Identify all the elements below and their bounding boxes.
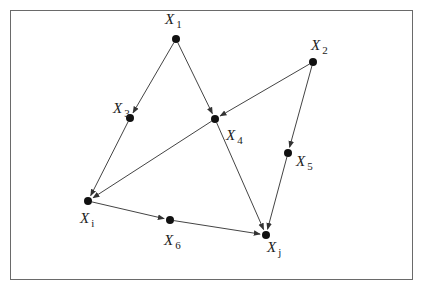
node-x4 xyxy=(211,115,219,123)
node-label-x5: X5 xyxy=(295,153,313,172)
node-x1 xyxy=(172,35,180,43)
node-label-x2: X2 xyxy=(310,37,328,56)
labels-group: X1X2X3X4X5XiX6Xj xyxy=(79,11,328,258)
edge-x1-to-x4 xyxy=(178,43,213,114)
edge-x5-to-xj xyxy=(268,157,287,229)
directed-graph: X1X2X3X4X5XiX6Xj xyxy=(0,0,425,286)
node-xi xyxy=(84,197,92,205)
edge-xi-to-x6 xyxy=(92,202,164,219)
edge-x2-to-x5 xyxy=(290,66,312,147)
node-label-xi: Xi xyxy=(79,210,94,229)
node-label-xj: Xj xyxy=(266,239,281,258)
node-label-x6: X6 xyxy=(163,232,181,251)
node-x5 xyxy=(284,149,292,157)
node-x2 xyxy=(309,58,317,66)
edges-group xyxy=(91,42,312,234)
node-x6 xyxy=(166,216,174,224)
edge-x6-to-xj xyxy=(174,221,260,234)
edge-x4-to-xi xyxy=(93,121,212,198)
node-label-x1: X1 xyxy=(164,11,182,30)
edge-x1-to-x3 xyxy=(133,42,174,112)
node-label-x4: X4 xyxy=(225,127,243,146)
node-xj xyxy=(262,231,270,239)
edge-x2-to-x4 xyxy=(220,64,309,116)
edge-x3-to-xi xyxy=(91,122,128,196)
node-label-x3: X3 xyxy=(112,100,130,119)
